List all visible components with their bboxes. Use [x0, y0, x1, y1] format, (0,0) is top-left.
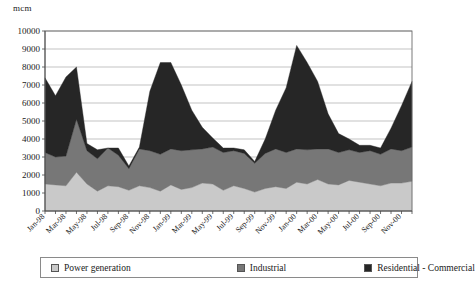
x-tick-label: Sep-00 [360, 212, 382, 234]
x-tick-label: Nov-99 [253, 212, 277, 236]
x-tick-label: May-98 [64, 212, 88, 236]
y-tick-label: 6000 [22, 98, 41, 108]
y-tick-label: 2000 [22, 170, 41, 180]
legend-label-power-generation: Power generation [64, 263, 131, 273]
x-tick-label: Jul-99 [215, 212, 236, 233]
x-tick-label: Mar-99 [170, 212, 193, 235]
legend-swatch-power-generation [51, 264, 59, 272]
y-tick-label: 1000 [22, 188, 41, 198]
x-tick-label: Jan-98 [25, 212, 46, 233]
x-tick-label: Jan-00 [277, 212, 298, 233]
legend-label-residential-commercial: Residential - Commercial [377, 263, 475, 273]
x-tick-label: Nov-98 [128, 212, 152, 236]
x-tick-label: May-99 [190, 212, 214, 236]
x-tick-label: Nov-00 [379, 212, 403, 236]
y-tick-label: 8000 [22, 62, 41, 72]
legend-item-residential-commercial: Residential - Commercial [364, 263, 475, 273]
legend-item-industrial: Industrial [237, 263, 286, 273]
legend-swatch-industrial [237, 264, 245, 272]
y-tick-label: 10000 [18, 26, 41, 36]
x-tick-label: Jul-98 [89, 212, 110, 233]
x-tick-label: May-00 [316, 212, 340, 236]
stacked-area-chart: 0100020003000400050006000700080009000100… [0, 0, 439, 250]
plot-area: 0100020003000400050006000700080009000100… [0, 0, 439, 250]
legend-item-power-generation: Power generation [51, 263, 131, 273]
x-tick-label: Sep-99 [234, 212, 256, 234]
x-tick-label: Sep-98 [108, 212, 130, 234]
x-tick-label: Mar-98 [44, 212, 67, 235]
legend-label-industrial: Industrial [250, 263, 286, 273]
chart-legend: Power generation Industrial Residential … [40, 257, 418, 278]
x-tick-label: Jan-99 [151, 212, 172, 233]
y-tick-label: 7000 [22, 80, 41, 90]
legend-swatch-residential-commercial [364, 264, 372, 272]
y-tick-label: 5000 [22, 116, 41, 126]
y-tick-label: 3000 [22, 152, 41, 162]
x-tick-label: Jul-00 [340, 212, 361, 233]
y-tick-label: 9000 [22, 44, 41, 54]
x-tick-label: Mar-00 [296, 212, 319, 235]
y-tick-label: 4000 [22, 134, 41, 144]
